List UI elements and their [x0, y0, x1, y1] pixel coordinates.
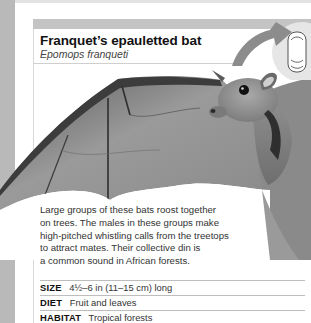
- description-line: to attract mates. Their collective din i…: [40, 242, 270, 255]
- description-line: on trees. The males in these groups make: [40, 217, 270, 230]
- thumb-size-comparison-icon: [230, 18, 311, 80]
- fact-label: SIZE: [40, 282, 62, 293]
- scientific-name: Epomops franqueti: [40, 48, 128, 60]
- species-title: Franquet’s epauletted bat: [40, 33, 201, 48]
- description-line: high-pitched whistling calls from the tr…: [40, 230, 270, 243]
- fact-row-diet: DIET Fruit and leaves: [40, 296, 305, 310]
- fact-row-habitat: HABITAT Tropical forests: [40, 311, 305, 323]
- fact-label: DIET: [40, 297, 62, 308]
- page-edge: [15, 0, 311, 3]
- fact-list: SIZE 4½–6 in (11–15 cm) long DIET Fruit …: [40, 280, 305, 323]
- fact-value: 4½–6 in (11–15 cm) long: [69, 282, 172, 293]
- description-line: Large groups of these bats roost togethe…: [40, 204, 270, 217]
- fact-label: HABITAT: [40, 312, 81, 323]
- fact-row-size: SIZE 4½–6 in (11–15 cm) long: [40, 281, 305, 295]
- species-description: Large groups of these bats roost togethe…: [40, 204, 270, 268]
- fact-value: Tropical forests: [89, 312, 153, 323]
- description-line: a common sound in African forests.: [40, 255, 270, 268]
- fact-value: Fruit and leaves: [70, 297, 137, 308]
- title-divider: [33, 63, 233, 64]
